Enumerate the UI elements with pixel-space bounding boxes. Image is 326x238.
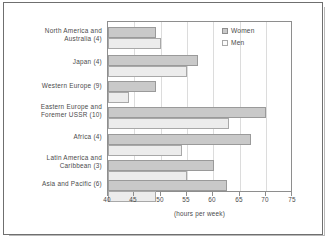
grouped-bar-chart: North America and Australia (4) Japan (4… xyxy=(0,0,326,238)
bar-men xyxy=(108,38,161,49)
bar-men xyxy=(108,145,182,156)
x-tick-label: 40 xyxy=(97,196,117,203)
category-label: Latin America and Caribbean (3) xyxy=(47,154,102,171)
legend-label: Men xyxy=(231,39,244,46)
x-tick-label: 45 xyxy=(123,196,143,203)
bar-women xyxy=(108,27,156,38)
legend-label: Women xyxy=(231,27,255,34)
legend-swatch-icon xyxy=(222,28,228,34)
bar-women xyxy=(108,107,266,118)
x-tick-label: 60 xyxy=(202,196,222,203)
legend-item-men: Men xyxy=(222,37,284,48)
legend-item-women: Women xyxy=(222,25,284,36)
x-tick-label: 65 xyxy=(229,196,249,203)
bar-men xyxy=(108,118,229,129)
bar-women xyxy=(108,134,251,145)
category-label: Eastern Europe and Foremer USSR (10) xyxy=(41,103,102,120)
bar-men xyxy=(108,92,129,103)
bar-women xyxy=(108,81,156,92)
category-label: North America and Australia (4) xyxy=(45,27,102,44)
bar-women xyxy=(108,180,227,191)
category-label: Japan (4) xyxy=(73,58,102,66)
category-label: Western Europe (9) xyxy=(42,82,102,90)
x-tick-label: 70 xyxy=(255,196,275,203)
bar-men xyxy=(108,66,187,77)
category-label: Asia and Pacific (6) xyxy=(42,180,102,188)
x-tick-label: 75 xyxy=(282,196,302,203)
x-tick-label: 50 xyxy=(150,196,170,203)
x-axis-title: (hours per week) xyxy=(107,210,292,217)
x-tick-label: 55 xyxy=(176,196,196,203)
bar-women xyxy=(108,55,198,66)
legend: Women Men xyxy=(222,25,284,49)
chart-screenshot: North America and Australia (4) Japan (4… xyxy=(0,0,326,238)
category-label: Africa (4) xyxy=(74,133,102,141)
legend-swatch-icon xyxy=(222,40,228,46)
bar-women xyxy=(108,160,214,171)
